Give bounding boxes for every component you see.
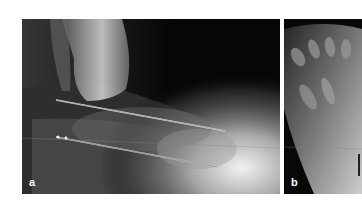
panel-label-b: b: [291, 177, 298, 188]
figure-panel-b: b: [284, 19, 362, 194]
xray-dorsoplantar-foot-image: [284, 19, 362, 194]
figure-panel-a: a: [22, 19, 280, 194]
panel-label-a: a: [29, 177, 35, 188]
xray-lateral-foot-image: [22, 19, 280, 194]
